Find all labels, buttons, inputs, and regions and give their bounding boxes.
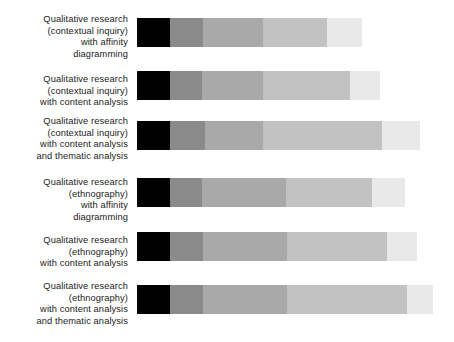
row-label-line: and thematic analysis [0, 151, 128, 163]
bar-segment-3 [205, 121, 263, 150]
row-label-6: Qualitative research (ethnography) with … [0, 281, 128, 327]
bar-segment-3 [203, 232, 287, 261]
row-label-line: with content analysis [0, 304, 128, 316]
row-label-line: Qualitative research [0, 74, 128, 86]
row-label-3: Qualitative research (contextual inquiry… [0, 116, 128, 162]
bar-segment-4 [263, 121, 382, 150]
row-label-line: (ethnography) [0, 247, 128, 259]
bar-segment-2 [170, 121, 205, 150]
bar-segment-5 [372, 178, 405, 207]
bar-segment-1 [137, 285, 170, 314]
bar-segment-5 [387, 232, 417, 261]
row-label-line: with content analysis [0, 139, 128, 151]
row-label-line: diagramming [0, 49, 128, 61]
row-label-line: and thematic analysis [0, 316, 128, 328]
row-label-line: Qualitative research [0, 14, 128, 26]
bar-3 [137, 121, 420, 150]
stacked-bar-chart: Qualitative research (contextual inquiry… [0, 0, 454, 342]
bar-segment-4 [263, 71, 350, 100]
bar-segment-2 [170, 71, 202, 100]
bar-2 [137, 71, 380, 100]
bar-1 [137, 18, 362, 47]
bar-4 [137, 178, 405, 207]
bar-segment-2 [170, 18, 203, 47]
row-label-line: with affinity [0, 200, 128, 212]
bar-segment-4 [287, 232, 387, 261]
row-label-line: diagramming [0, 212, 128, 224]
row-label-line: Qualitative research [0, 116, 128, 128]
bar-segment-3 [202, 178, 286, 207]
bar-segment-5 [327, 18, 362, 47]
row-label-line: with content analysis [0, 97, 128, 109]
bar-segment-1 [137, 71, 170, 100]
bar-segment-1 [137, 121, 170, 150]
row-label-line: (contextual inquiry) [0, 26, 128, 38]
row-label-line: (contextual inquiry) [0, 128, 128, 140]
bar-segment-2 [170, 285, 203, 314]
row-label-line: Qualitative research [0, 281, 128, 293]
bar-segment-3 [203, 285, 287, 314]
bar-segment-1 [137, 232, 170, 261]
row-label-line: with affinity [0, 37, 128, 49]
bar-segment-2 [170, 232, 203, 261]
row-label-4: Qualitative research (ethnography) with … [0, 177, 128, 223]
row-label-2: Qualitative research (contextual inquiry… [0, 74, 128, 109]
bar-segment-4 [287, 285, 407, 314]
bar-segment-2 [170, 178, 202, 207]
bar-segment-5 [407, 285, 433, 314]
row-label-1: Qualitative research (contextual inquiry… [0, 14, 128, 60]
bar-5 [137, 232, 417, 261]
bar-segment-1 [137, 18, 170, 47]
bar-segment-4 [263, 18, 327, 47]
row-label-line: with content analysis [0, 258, 128, 270]
row-label-line: (ethnography) [0, 293, 128, 305]
bar-6 [137, 285, 433, 314]
row-label-line: (contextual inquiry) [0, 86, 128, 98]
bar-segment-5 [382, 121, 420, 150]
row-label-line: (ethnography) [0, 189, 128, 201]
bar-segment-4 [286, 178, 372, 207]
row-label-5: Qualitative research (ethnography) with … [0, 235, 128, 270]
row-label-line: Qualitative research [0, 177, 128, 189]
bar-segment-5 [350, 71, 380, 100]
bar-segment-1 [137, 178, 170, 207]
bar-segment-3 [202, 71, 263, 100]
row-label-line: Qualitative research [0, 235, 128, 247]
bar-segment-3 [203, 18, 263, 47]
